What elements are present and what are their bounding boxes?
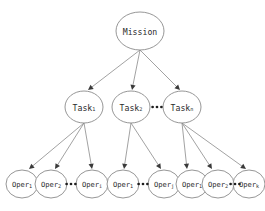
task-node-label: Task2	[120, 102, 143, 112]
label-subscript-text: 1	[130, 183, 133, 189]
node-mission[interactable]: Mission	[116, 12, 164, 50]
arrow-head-icon	[207, 163, 212, 169]
edge-task-2-to-oper-2-1	[122, 123, 131, 169]
edge-mission-to-task-n	[140, 50, 180, 90]
node-task-1[interactable]: Task1	[65, 91, 103, 123]
ellipsis-tasks	[151, 106, 162, 109]
node-oper-2-j[interactable]: Operj	[148, 170, 180, 198]
edge-task-1-to-oper-1-2	[55, 123, 84, 169]
ellipsis-dot	[70, 183, 73, 186]
label-base-text: Oper	[208, 179, 225, 188]
arrow-head-icon	[184, 164, 189, 169]
edge-line	[32, 123, 84, 167]
ellipsis-oper-3	[229, 183, 240, 186]
ellipsis-dot	[146, 183, 149, 186]
ellipsis-dot	[234, 183, 237, 186]
arrow-head-icon	[130, 84, 135, 90]
ellipsis-dot	[160, 106, 163, 109]
ellipsis-dot	[156, 106, 159, 109]
edge-task-n-to-oper-3-1	[182, 123, 189, 169]
node-oper-3-k[interactable]: Operk	[233, 170, 265, 198]
arrow-head-icon	[88, 85, 94, 90]
ellipsis-oper-1	[65, 183, 77, 186]
label-subscript-text: i	[99, 183, 102, 189]
node-oper-1-1[interactable]: Oper1	[6, 170, 38, 198]
node-oper-3-2[interactable]: Oper2	[202, 170, 234, 198]
edge-line	[125, 123, 131, 166]
label-subscript-text: 1	[92, 106, 95, 112]
mission-node-label: Mission	[123, 26, 158, 36]
label-base-text: Oper	[113, 179, 130, 188]
edge-line	[57, 123, 84, 166]
label-subscript-text: 2	[225, 183, 228, 189]
edge-line	[131, 123, 159, 166]
edge-line	[91, 50, 140, 88]
node-task-2[interactable]: Task2	[112, 91, 150, 123]
arrow-head-icon	[55, 163, 60, 169]
arrow-head-icon	[240, 164, 246, 169]
edge-line	[140, 50, 178, 88]
node-oper-2-1[interactable]: Oper1	[107, 170, 139, 198]
label-subscript-text: 1	[29, 183, 32, 189]
label-base-text: Oper	[82, 179, 99, 188]
ellipsis-dot	[151, 106, 154, 109]
arrow-head-icon	[156, 163, 161, 169]
task-node-label: Task1	[73, 102, 96, 112]
node-oper-1-i[interactable]: Operi	[76, 170, 108, 198]
mission-task-operation-tree: MissionTask1Task2TasknOper1Oper2OperiOpe…	[0, 0, 265, 211]
label-base-text: Oper	[41, 179, 58, 188]
label-base-text: Task	[120, 102, 140, 112]
label-subscript-text: n	[190, 106, 193, 112]
edge-task-2-to-oper-2-j	[131, 123, 161, 169]
edge-mission-to-task-1	[88, 50, 140, 90]
ellipsis-dot	[229, 183, 232, 186]
ellipsis-dot	[74, 183, 77, 186]
label-base-text: Mission	[123, 26, 158, 36]
label-subscript-text: 2	[139, 106, 142, 112]
label-base-text: Task	[171, 102, 191, 112]
nodes-layer: MissionTask1Task2TasknOper1Oper2OperiOpe…	[6, 12, 265, 198]
diagram-canvas: MissionTask1Task2TasknOper1Oper2OperiOpe…	[0, 0, 265, 211]
ellipsis-dot	[65, 183, 68, 186]
edge-task-n-to-oper-3-k	[182, 123, 246, 169]
label-base-text: Oper	[154, 179, 171, 188]
task-node-label: Taskn	[171, 102, 194, 112]
ellipsis-dot	[238, 183, 241, 186]
ellipsis-dot	[137, 183, 140, 186]
edge-line	[182, 123, 243, 167]
label-base-text: Oper	[239, 179, 256, 188]
edge-line	[84, 123, 91, 166]
label-base-text: Oper	[182, 179, 199, 188]
edge-line	[133, 50, 140, 87]
ellipsis-dot	[142, 183, 145, 186]
label-subscript-text: j	[171, 183, 174, 190]
node-oper-1-2[interactable]: Oper2	[35, 170, 67, 198]
label-base-text: Oper	[12, 179, 29, 188]
label-base-text: Task	[73, 102, 93, 112]
arrow-head-icon	[89, 163, 94, 169]
ellipsis-oper-2	[137, 183, 148, 186]
arrow-head-icon	[122, 163, 127, 169]
label-subscript-text: 2	[58, 183, 61, 189]
edge-task-1-to-oper-1-i	[84, 123, 94, 169]
node-task-n[interactable]: Taskn	[163, 91, 201, 123]
edge-task-1-to-oper-1-1	[29, 123, 84, 169]
